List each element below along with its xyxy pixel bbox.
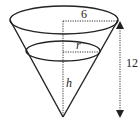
top-radius-label: 6 [81,7,87,21]
cone-diagram: 6 r h 12 [0,0,140,126]
water-height-label: h [66,76,72,90]
cone-left-side [10,20,63,117]
cone-figure: 6 r h 12 [0,0,140,126]
cone-height-label: 12 [126,56,138,70]
top-rim-ellipse [10,6,118,34]
water-radius-label: r [76,38,81,52]
arrow-down-icon [116,110,124,118]
